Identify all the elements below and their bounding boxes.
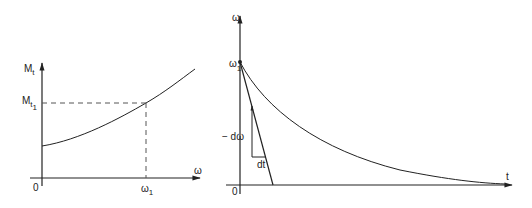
left-origin-label: 0 — [33, 182, 39, 193]
speed-vs-time-chart: ω ω1 − dω dt 0 t — [222, 12, 512, 197]
right-y-axis-label: ω — [232, 12, 240, 23]
torque-vs-speed-chart: Mt Mt1 ω ω1 0 — [22, 63, 202, 197]
omega1-label: ω1 — [141, 183, 154, 197]
left-y-axis-label: Mt — [24, 63, 35, 77]
left-x-axis-label: ω — [194, 165, 202, 176]
diagram-canvas: Mt Mt1 ω ω1 0 ω ω1 − dω dt 0 t — [0, 0, 532, 208]
mt1-label: Mt1 — [22, 95, 38, 112]
torque-curve — [42, 69, 195, 146]
d-omega-label: − dω — [222, 131, 244, 142]
dt-label: dt — [257, 159, 266, 170]
right-origin-label: 0 — [232, 186, 238, 197]
right-x-axis-label: t — [506, 171, 509, 182]
deceleration-curve — [240, 62, 505, 184]
